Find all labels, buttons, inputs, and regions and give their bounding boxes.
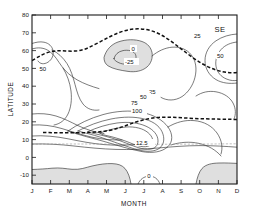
x-tick-label-aug: A: [160, 187, 165, 194]
x-tick-label-apr: A: [86, 187, 91, 194]
x-tick-label-dec: D: [235, 187, 240, 194]
contour-label-12point5: 12.5: [136, 140, 148, 146]
chart-svg: 50 0 -25 25 50 75 100 12.5 0 25 50: [0, 0, 255, 213]
contour-label-75-central: 75: [131, 100, 138, 106]
y-tick-label-40: 40: [22, 82, 29, 89]
contour-label-50-central: 50: [140, 94, 147, 100]
x-tick-label-may: M: [104, 187, 109, 194]
y-axis-title: LATITUDE: [7, 82, 14, 116]
y-tick-label-60: 60: [22, 47, 29, 54]
y-tick-label-70: 70: [22, 29, 29, 36]
x-tick-label-feb: F: [49, 187, 53, 194]
x-tick-label-jan: J: [30, 187, 33, 194]
y-tick-label-50: 50: [22, 65, 29, 72]
x-tick-label-mar: M: [67, 187, 72, 194]
x-axis-title: MONTH: [121, 200, 147, 207]
y-tick-label-10: 10: [22, 136, 29, 143]
y-tick-label-20: 20: [22, 118, 29, 125]
y-tick-label-30: 30: [22, 100, 29, 107]
contour-label-50-autumn: 50: [217, 53, 224, 59]
y-tick-label-0: 0: [26, 154, 30, 161]
x-tick-label-jun: J: [124, 187, 127, 194]
x-tick-label-nov: N: [216, 187, 220, 194]
corner-annotation-se: SE: [215, 25, 226, 34]
contour-chart-figure: 50 0 -25 25 50 75 100 12.5 0 25 50: [0, 0, 255, 213]
contour-label-minus25: -25: [125, 59, 134, 65]
y-tick-label-minus10: -10: [20, 171, 30, 178]
x-tick-label-oct: O: [197, 187, 202, 194]
x-tick-label-jul: J: [142, 187, 145, 194]
contour-label-50-jan: 50: [40, 66, 47, 72]
y-tick-label-80: 80: [22, 11, 29, 18]
x-tick-label-sep: S: [179, 187, 183, 194]
contour-label-25-autumn: 25: [194, 33, 201, 39]
contour-label-100-central: 100: [132, 108, 143, 114]
